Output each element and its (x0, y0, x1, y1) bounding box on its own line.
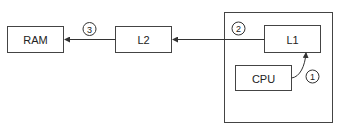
l1-node: L1 (265, 26, 321, 53)
ram-label: RAM (23, 34, 47, 46)
l2-node: L2 (116, 27, 172, 53)
l2-label: L2 (137, 34, 149, 46)
l1-label: L1 (286, 34, 298, 46)
cpu-node: CPU (236, 66, 292, 91)
step-3-badge: 3 (83, 23, 96, 36)
edge-cpu-to-l1 (292, 53, 307, 78)
step-1-number: 1 (310, 72, 315, 82)
cache-hierarchy-diagram: RAM L2 L1 CPU 1 2 3 (0, 0, 338, 131)
cpu-label: CPU (252, 73, 275, 85)
step-3-number: 3 (87, 25, 92, 35)
step-2-number: 2 (236, 24, 241, 34)
step-2-badge: 2 (232, 22, 245, 35)
ram-node: RAM (8, 27, 64, 53)
step-1-badge: 1 (306, 70, 319, 83)
